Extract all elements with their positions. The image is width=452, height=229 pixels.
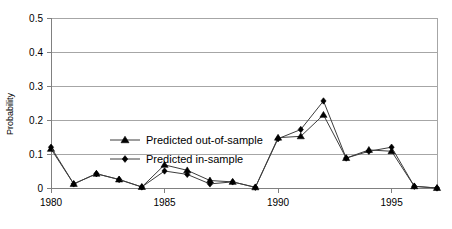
x-tick-label: 1990 xyxy=(267,197,290,208)
y-axis-tick-labels: 00.10.20.30.40.5 xyxy=(29,13,43,194)
data-point-marker xyxy=(162,168,167,174)
y-axis-title: Probability xyxy=(5,92,15,135)
x-tick-label: 1985 xyxy=(153,197,176,208)
chart-canvas: 00.10.20.30.40.5 1980198519901995 Predic… xyxy=(0,0,452,229)
x-axis-tick-labels: 1980198519901995 xyxy=(40,188,403,208)
y-tick-label: 0.2 xyxy=(29,115,43,126)
series-1 xyxy=(47,111,440,190)
legend-item: Predicted out-of-sample xyxy=(110,134,263,146)
y-tick-label: 0.3 xyxy=(29,81,43,92)
data-point-marker xyxy=(320,111,327,117)
legend-marker-diamond xyxy=(122,156,128,163)
chart-legend: Predicted out-of-samplePredicted in-samp… xyxy=(110,134,263,165)
x-tick-label: 1980 xyxy=(40,197,63,208)
legend-item: Predicted in-sample xyxy=(110,153,243,165)
plot-frame xyxy=(51,18,437,188)
y-tick-label: 0.4 xyxy=(29,47,43,58)
legend-label: Predicted out-of-sample xyxy=(146,134,263,146)
y-tick-label: 0.1 xyxy=(29,149,43,160)
probability-line-chart: 00.10.20.30.40.5 1980198519901995 Predic… xyxy=(0,0,452,229)
x-tick-label: 1995 xyxy=(380,197,403,208)
legend-marker-triangle xyxy=(121,136,129,143)
y-tick-label: 0 xyxy=(37,183,43,194)
y-tick-label: 0.5 xyxy=(29,13,43,24)
legend-label: Predicted in-sample xyxy=(146,153,243,165)
